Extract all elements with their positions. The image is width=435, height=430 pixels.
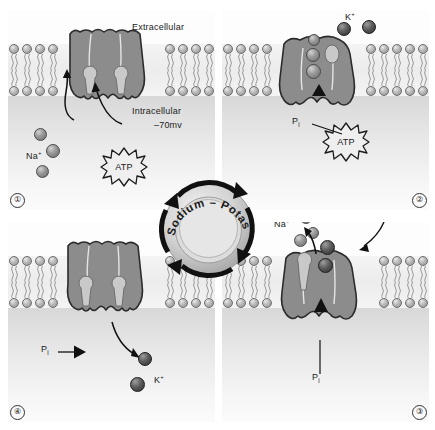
lipid-tails-icon [419, 266, 428, 282]
lipid-head-icon [236, 86, 246, 96]
lipid-tails-icon [380, 70, 389, 86]
lipid-tails-icon [237, 54, 246, 70]
potassium-label-4: K+ [154, 374, 164, 385]
phospholipid [378, 70, 391, 96]
lipid-tails-icon [406, 282, 415, 298]
phospholipid [378, 256, 391, 282]
lipid-head-icon [165, 298, 175, 308]
lipid-tails-icon [179, 70, 188, 86]
lipid-tails-icon [419, 282, 428, 298]
phospholipid [21, 70, 34, 96]
phospholipid [177, 282, 190, 308]
lipid-tails-icon [367, 70, 376, 86]
lipid-head-icon [204, 44, 214, 54]
phospholipid [222, 70, 235, 96]
potassium-label-2: K+ [345, 11, 355, 22]
released-potassium-ion [130, 377, 145, 392]
lipid-tails-icon [393, 282, 402, 298]
sodium-ion [36, 165, 49, 178]
phospholipid [391, 44, 404, 70]
phospholipid [177, 70, 190, 96]
lipid-head-icon [22, 256, 32, 266]
phosphate-label-2: Pi [292, 116, 300, 128]
lipid-tails-icon [166, 70, 175, 86]
panel-number-1: ① [10, 193, 25, 208]
lipid-head-icon [48, 298, 58, 308]
phospholipid [203, 44, 215, 70]
lipid-head-icon [165, 44, 175, 54]
atp-binding-arrow-1 [80, 76, 128, 128]
phosphate-release-arrow-4 [56, 344, 90, 360]
phospholipid [164, 70, 177, 96]
phospholipid [404, 256, 417, 282]
phospholipid [203, 70, 215, 96]
potassium-ion [337, 22, 351, 36]
bound-sodium-ion [306, 64, 321, 79]
phospholipid [21, 44, 34, 70]
lipid-head-icon [9, 298, 19, 308]
lipid-head-icon [223, 44, 233, 54]
lipid-head-icon [191, 86, 201, 96]
lipid-head-icon [35, 298, 45, 308]
lipid-tails-icon [367, 54, 376, 70]
intracellular-label-1: Intracellular [132, 106, 181, 116]
phospholipid [8, 282, 21, 308]
phospholipid [378, 282, 391, 308]
phospholipid [417, 44, 429, 70]
phospholipid [404, 70, 417, 96]
lipid-tails-icon [237, 70, 246, 86]
lipid-head-icon [418, 44, 428, 54]
lipid-head-icon [392, 44, 402, 54]
phospholipid [417, 256, 429, 282]
panel-number-3: ③ [412, 405, 427, 420]
lipid-tails-icon [10, 70, 19, 86]
lipid-head-icon [262, 298, 272, 308]
lipid-tails-icon [406, 70, 415, 86]
phosphate-pointer-2 [310, 120, 344, 138]
lipid-head-icon [249, 298, 259, 308]
sodium-ion [46, 144, 60, 158]
phospholipid [417, 282, 429, 308]
lipid-head-icon [9, 256, 19, 266]
lipid-tails-icon [10, 54, 19, 70]
lipid-head-icon [165, 86, 175, 96]
phospholipid [378, 44, 391, 70]
lipid-head-icon [379, 298, 389, 308]
lipid-tails-icon [36, 282, 45, 298]
lipid-tails-icon [393, 266, 402, 282]
phospholipid [235, 44, 248, 70]
lipid-tails-icon [23, 282, 32, 298]
lipid-tails-icon [10, 266, 19, 282]
lipid-tails-icon [49, 266, 58, 282]
lipid-tails-icon [380, 266, 389, 282]
phospholipid [190, 44, 203, 70]
lipid-head-icon [22, 86, 32, 96]
released-potassium-ion [138, 352, 152, 366]
phospholipid [248, 44, 261, 70]
phospholipid [190, 282, 203, 308]
phospholipid [417, 70, 429, 96]
lipid-head-icon [418, 256, 428, 266]
pump-protein-3 [272, 246, 366, 328]
phospholipid [365, 70, 378, 96]
lipid-head-icon [204, 298, 214, 308]
lipid-tails-icon [393, 70, 402, 86]
lipid-tails-icon [166, 54, 175, 70]
lipid-tails-icon [192, 70, 201, 86]
potassium-ion [362, 20, 376, 34]
phospholipid [8, 44, 21, 70]
phospholipid [47, 44, 60, 70]
phosphate-label-3: Pi [312, 372, 320, 384]
extracellular-label-1: Extracellular [132, 22, 184, 32]
phospholipid [391, 282, 404, 308]
phospholipid [235, 282, 248, 308]
lipid-head-icon [48, 44, 58, 54]
phospholipid [248, 282, 261, 308]
phospholipid [248, 70, 261, 96]
lipid-head-icon [223, 86, 233, 96]
membrane-potential-label-1: –70mv [154, 120, 182, 130]
phosphate-release-arrow-3 [312, 334, 328, 376]
pump-cycle-hub: Sodium – Potassium Pump [152, 172, 265, 285]
phospholipid [404, 282, 417, 308]
lipid-tails-icon [179, 54, 188, 70]
